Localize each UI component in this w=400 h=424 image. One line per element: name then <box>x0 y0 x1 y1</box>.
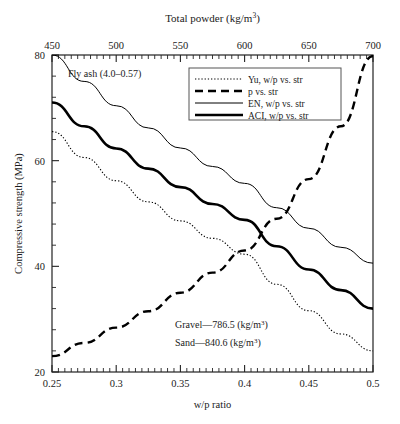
chart-canvas: 0.250.30.350.40.450.54505005506006507002… <box>0 0 400 424</box>
top-tick-label: 700 <box>365 40 381 51</box>
y-tick-label: 40 <box>35 261 46 272</box>
top-tick-label: 450 <box>44 40 60 51</box>
x-tick-label: 0.4 <box>238 378 252 389</box>
legend-label-3: EN, w/p vs. str <box>248 99 306 109</box>
x-tick-label: 0.25 <box>43 378 61 389</box>
x-tick-label: 0.5 <box>366 378 379 389</box>
x-axis-title: w/p ratio <box>194 399 232 410</box>
y-tick-label: 80 <box>35 50 46 61</box>
y-tick-label: 20 <box>35 367 46 378</box>
top-axis-title: Total powder (kg/m3) <box>165 11 260 25</box>
annotation-gravel: Gravel—786.5 (kg/m3) <box>175 319 268 332</box>
y-axis-title: Compressive strength (MPa) <box>13 153 25 274</box>
top-tick-label: 650 <box>301 40 317 51</box>
legend-label-1: Yu, w/p vs. str <box>248 75 303 85</box>
annotation-fly-ash: Fly ash (4.0–0.57) <box>68 68 141 80</box>
top-tick-label: 500 <box>108 40 124 51</box>
annotation-sand: Sand—840.6 (kg/m3) <box>175 337 261 350</box>
legend-label-4: ACI, w/p vs. str <box>248 111 309 121</box>
top-tick-label: 600 <box>237 40 253 51</box>
figure-container: 0.250.30.350.40.450.54505005506006507002… <box>0 0 400 424</box>
x-tick-label: 0.3 <box>110 378 123 389</box>
series-line-1 <box>52 132 373 351</box>
legend-label-2: p vs. str <box>248 87 279 97</box>
y-tick-label: 60 <box>35 156 46 167</box>
x-tick-label: 0.35 <box>171 378 189 389</box>
top-tick-label: 550 <box>173 40 189 51</box>
x-tick-label: 0.45 <box>300 378 318 389</box>
series-line-4 <box>52 103 373 309</box>
